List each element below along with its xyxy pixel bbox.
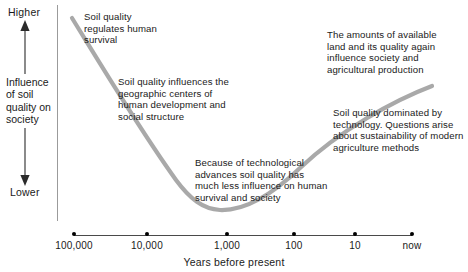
annotation-available-land-quality: The amounts of available land and its qu… [327, 29, 437, 75]
annotation-5-line-4: survival and society [195, 192, 327, 204]
annotation-4-line-1: Soil quality dominated by [333, 107, 463, 119]
annotation-2-line-4: social structure [118, 111, 229, 123]
x-axis-label-1000: 1,000 [214, 240, 240, 251]
annotation-4-line-3: about sustainability of modern [333, 130, 463, 142]
annotation-technology-dominance: Soil quality dominated by technology. Qu… [333, 107, 463, 153]
x-axis-label-100000: 100,000 [55, 240, 93, 251]
x-axis-tick-1000 [225, 232, 229, 236]
annotation-soil-regulates-survival: Soil quality regulates human survival [84, 11, 157, 46]
x-axis-tick-100 [292, 232, 296, 236]
x-axis-tick-100000 [72, 232, 76, 236]
annotation-3-line-4: agricultural production [327, 64, 437, 76]
x-axis-label-now: now [403, 240, 422, 251]
annotation-3-line-1: The amounts of available [327, 29, 437, 41]
annotation-technological-advances: Because of technological advances soil q… [195, 157, 327, 203]
annotation-4-line-2: technology. Questions arise [333, 119, 463, 131]
annotation-soil-influences-geography: Soil quality influences the geographic c… [118, 76, 229, 122]
annotation-1-line-1: Soil quality [84, 11, 157, 23]
annotation-2-line-2: geographic centers of [118, 88, 229, 100]
x-axis-label-10000: 10,000 [131, 240, 163, 251]
x-axis-tick-now [410, 232, 414, 236]
x-axis-tick-10 [353, 232, 357, 236]
x-axis-tick-10000 [145, 232, 149, 236]
annotation-1-line-2: regulates human [84, 23, 157, 35]
annotation-4-line-4: agriculture methods [333, 142, 463, 154]
soil-quality-influence-diagram: Higher Influence of soil quality on soci… [0, 0, 468, 272]
annotation-3-line-3: influence society and [327, 52, 437, 64]
annotation-3-line-2: land and its quality again [327, 41, 437, 53]
annotation-2-line-3: human development and [118, 99, 229, 111]
annotation-5-line-3: much less influence on human [195, 180, 327, 192]
annotation-5-line-2: advances soil quality has [195, 169, 327, 181]
x-axis-title: Years before present [0, 256, 468, 268]
annotation-5-line-1: Because of technological [195, 157, 327, 169]
annotation-2-line-1: Soil quality influences the [118, 76, 229, 88]
annotation-1-line-3: survival [84, 34, 157, 46]
x-axis-line [74, 235, 412, 236]
x-axis-label-10: 10 [349, 240, 361, 251]
x-axis-label-100: 100 [285, 240, 302, 251]
